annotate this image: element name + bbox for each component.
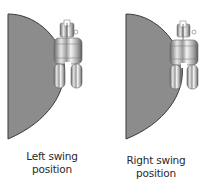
presser-foot-icon [54, 20, 82, 88]
caption-line-1: Left swing [14, 150, 90, 163]
caption-line-2: position [14, 163, 90, 176]
left-swing-panel: Left swing position [0, 0, 102, 186]
caption-line-2: position [116, 167, 196, 180]
right-swing-panel: Right swing position [102, 0, 204, 186]
caption-line-1: Right swing [116, 154, 196, 167]
left-swing-illustration [0, 0, 102, 140]
presser-foot-icon [170, 21, 198, 89]
left-swing-caption: Left swing position [14, 150, 90, 176]
right-swing-illustration [102, 0, 204, 140]
right-swing-caption: Right swing position [116, 154, 196, 180]
